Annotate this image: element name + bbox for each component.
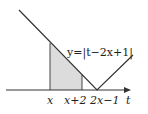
axis-label-t: t <box>126 94 131 107</box>
absolute-value-diagram: y=|t−2x+1| x x+2 2x−1 t <box>0 0 148 114</box>
equation-label: y=|t−2x+1| <box>66 46 133 60</box>
t-axis-arrow-icon <box>124 87 131 93</box>
tick-label-x: x <box>47 94 54 107</box>
tick-label-x-plus-2: x+2 <box>64 94 86 107</box>
tick-label-2x-minus-1: 2x−1 <box>89 94 119 107</box>
